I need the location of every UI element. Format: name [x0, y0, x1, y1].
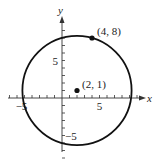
x-axis-label: x — [146, 92, 152, 104]
point-label: (4, 8) — [97, 25, 121, 38]
y-tick-label: 5 — [53, 55, 59, 67]
circle-graph: −555−5 (4, 8)(2, 1) x y — [0, 0, 154, 159]
y-axis-arrow — [60, 16, 65, 23]
x-tick-label: 5 — [97, 100, 103, 112]
point-label: (2, 1) — [82, 78, 106, 91]
data-point — [74, 88, 79, 93]
y-axis-label: y — [57, 4, 63, 16]
y-tick-label: −5 — [65, 130, 77, 142]
data-point — [89, 35, 94, 40]
x-axis-arrow — [139, 96, 146, 101]
